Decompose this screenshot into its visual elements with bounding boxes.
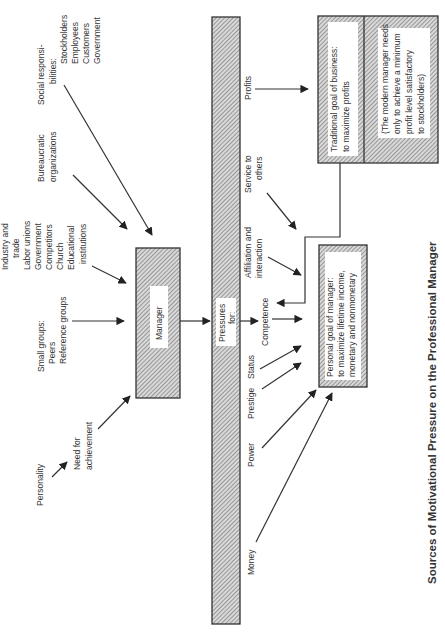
svg-text:Peers: Peers [47, 342, 57, 364]
business-note-line-3: profit level satisfactory [404, 49, 414, 134]
svg-text:Small groups:: Small groups: [36, 320, 46, 372]
svg-text:Government: Government [33, 223, 43, 270]
motivational-pressure-diagram: Social responsi- bilities: Stockholders … [0, 0, 445, 636]
label-competence: Competence [260, 298, 270, 346]
svg-text:trade: trade [11, 238, 21, 258]
label-affiliation-l1: Affiliation and [243, 227, 253, 278]
business-note-line-4: to stockholders) [416, 74, 426, 134]
business-note-line-1: (The modern manager needs [380, 24, 390, 134]
svg-text:Employees: Employees [70, 22, 80, 64]
svg-text:Educational: Educational [66, 225, 76, 270]
business-note-line-2: only to achieve a minimum [392, 33, 402, 134]
source-small-groups: Small groups: Peers Reference groups [36, 296, 68, 372]
business-goal-line-2: to maximize profits [341, 81, 351, 152]
source-personality: Personality [35, 463, 45, 506]
pressure-labels: Profits Service to others Affiliation an… [243, 76, 270, 575]
manager-box: Manager [136, 248, 180, 398]
arrow-social-to-manager [64, 85, 152, 235]
svg-text:for:: for: [227, 312, 237, 324]
label-profits: Profits [243, 76, 253, 100]
personal-goal-line-3: monetary and nonmonetary [347, 272, 357, 377]
personal-goal-line-1: Personal goal of manager: [325, 277, 335, 377]
figure-title: Sources of Motivational Pressure on the … [426, 241, 438, 584]
svg-text:Social responsi-: Social responsi- [36, 44, 46, 105]
business-goal-line-1: Traditional goal of business: [329, 46, 339, 152]
svg-text:Church: Church [55, 242, 65, 270]
svg-text:Stockholders: Stockholders [59, 15, 69, 64]
source-industry-and-trade: Industry and trade Labor unions Governme… [0, 221, 88, 270]
arrow-service-to-connector [267, 193, 296, 229]
label-affiliation-l2: interaction [254, 239, 264, 278]
source-bureaucratic-organizations: Bureaucratic organizations [36, 131, 58, 182]
arrow-affiliation-to-connector [268, 257, 301, 275]
svg-text:Bureaucratic: Bureaucratic [36, 134, 46, 182]
label-power: Power [246, 443, 256, 467]
arrow-money-to-personal-goal [256, 393, 332, 542]
svg-text:achievement: achievement [84, 421, 94, 470]
label-service-l2: others [254, 156, 264, 180]
personal-goal-box: Personal goal of manager: to maximize li… [319, 245, 367, 387]
arrow-prestige-to-personal-goal [262, 363, 301, 389]
label-status: Status [246, 355, 256, 379]
svg-text:Competitors: Competitors [44, 224, 54, 270]
svg-text:bilities:: bilities: [48, 58, 58, 84]
arrow-bureaucratic-to-manager [73, 175, 127, 229]
svg-text:Reference groups: Reference groups [58, 296, 68, 364]
personal-goal-line-2: to maximize lifetime income, [336, 270, 346, 377]
manager-label: Manager [154, 306, 164, 340]
label-service-l1: Service to [243, 155, 253, 193]
arrow-personality-to-need [52, 462, 67, 477]
svg-text:organizations: organizations [48, 131, 58, 182]
svg-text:Labor unions: Labor unions [22, 221, 32, 270]
svg-text:Customers: Customers [81, 23, 91, 64]
label-money: Money [246, 549, 256, 575]
pressures-bar: Pressures for: [212, 17, 240, 624]
svg-text:Government: Government [92, 17, 102, 64]
source-need-for-achievement: Need for achievement [72, 421, 94, 470]
svg-text:Pressures: Pressures [217, 304, 227, 342]
label-prestige: Prestige [246, 388, 256, 419]
svg-text:institutions: institutions [78, 224, 88, 264]
arrow-status-to-personal-goal [260, 346, 301, 369]
arrow-need-to-manager [98, 396, 130, 429]
svg-text:Need for: Need for [72, 437, 82, 470]
business-goal-box: Traditional goal of business: to maximiz… [318, 16, 438, 163]
source-social-responsibilities: Social responsi- bilities: Stockholders … [36, 15, 102, 105]
svg-text:Industry and: Industry and [0, 223, 10, 270]
arrow-industry-to-manager [92, 266, 126, 283]
